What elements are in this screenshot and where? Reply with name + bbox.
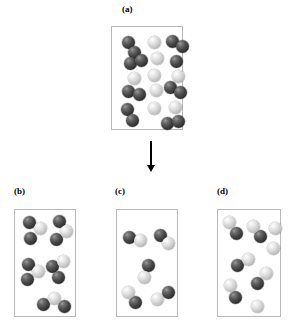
dark-atom (135, 54, 148, 67)
panel-box-a (111, 26, 183, 130)
panel-label-b: (b) (14, 186, 25, 196)
panel-label-c: (c) (115, 186, 125, 196)
light-atom (128, 72, 141, 85)
light-atom (247, 220, 260, 233)
dark-atom (230, 227, 243, 240)
light-atom (138, 271, 151, 284)
panel-box-c (116, 209, 178, 317)
light-atom (60, 225, 73, 238)
panel-label-d: (d) (217, 186, 228, 196)
light-atom (122, 286, 135, 299)
light-atom (251, 300, 264, 313)
molecular-reaction-figure: { "figure": { "title": "Molecular reacti… (0, 0, 297, 328)
dark-atom (176, 40, 189, 53)
light-atom (242, 253, 255, 266)
light-atom (134, 234, 147, 247)
light-atom (224, 279, 237, 292)
light-atom (260, 267, 273, 280)
arrow-head-icon (147, 165, 155, 172)
light-atom (48, 292, 61, 305)
light-atom (150, 84, 163, 97)
panel-label-a: (a) (122, 4, 133, 14)
light-atom (32, 265, 45, 278)
light-atom (151, 293, 164, 306)
light-atom (169, 101, 182, 114)
panel-box-d (217, 209, 281, 317)
light-atom (269, 222, 282, 235)
dark-atom (162, 286, 175, 299)
light-atom (148, 36, 161, 49)
dark-atom (170, 55, 183, 68)
dark-atom (174, 86, 187, 99)
dark-atom (133, 88, 146, 101)
light-atom (223, 216, 236, 229)
dark-atom (229, 291, 242, 304)
dark-atom (126, 114, 139, 127)
light-atom (148, 102, 161, 115)
dark-atom (24, 232, 37, 245)
arrow-shaft (150, 141, 152, 166)
panel-box-b (14, 209, 76, 317)
light-atom (151, 52, 164, 65)
light-atom (57, 255, 70, 268)
dark-atom (172, 115, 185, 128)
light-atom (162, 237, 175, 250)
light-atom (267, 242, 280, 255)
light-atom (148, 69, 161, 82)
light-atom (34, 222, 47, 235)
dark-atom (52, 271, 65, 284)
